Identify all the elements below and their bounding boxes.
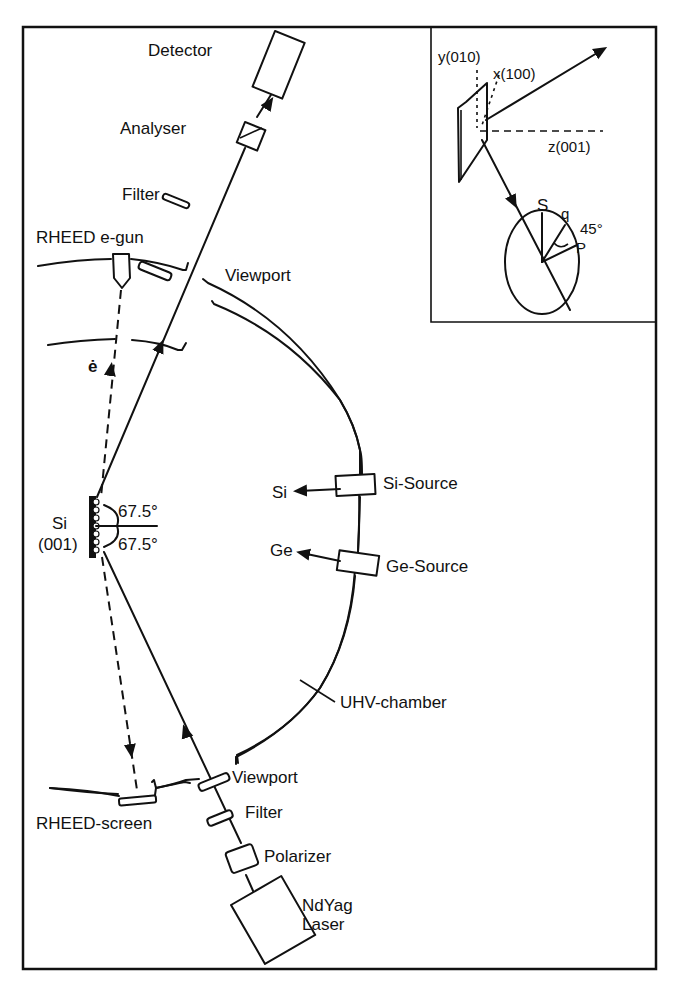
rheed-screen bbox=[119, 795, 156, 805]
si-sample-label-1: Si bbox=[52, 514, 67, 533]
inset-geometry bbox=[458, 50, 603, 314]
pol-angle-label: 45° bbox=[580, 220, 603, 237]
viewport-bottom-label: Viewport bbox=[232, 768, 298, 787]
polarizer-label: Polarizer bbox=[264, 847, 331, 866]
analyser-label: Analyser bbox=[120, 119, 186, 138]
laser-label-1: NdYag bbox=[302, 896, 353, 915]
axis-y-label: y(010) bbox=[438, 48, 481, 65]
ge-source bbox=[302, 550, 379, 575]
si-beam-label: Si bbox=[272, 483, 287, 502]
analyser-box bbox=[237, 122, 266, 151]
filter-top bbox=[162, 193, 190, 209]
chamber-lower-arc bbox=[236, 576, 355, 764]
diffracted-electron-beam bbox=[102, 557, 137, 790]
si-source-label: Si-Source bbox=[383, 474, 458, 493]
ge-beam-label: Ge bbox=[270, 541, 293, 560]
beam-from-laser bbox=[246, 875, 254, 893]
axis-x-label: x(100) bbox=[493, 65, 536, 82]
chamber-bottom-mid bbox=[155, 782, 190, 795]
filter-bottom bbox=[206, 809, 233, 826]
experimental-setup-diagram: Detector Analyser Filter Viewport RHEED … bbox=[0, 0, 673, 988]
polarizer bbox=[225, 843, 259, 873]
rheed-egun bbox=[113, 254, 130, 288]
angle-upper-label: 67.5° bbox=[118, 502, 158, 521]
filter-bottom-label: Filter bbox=[245, 803, 283, 822]
angle-lower-label: 67.5° bbox=[118, 535, 158, 554]
detector-label: Detector bbox=[148, 41, 213, 60]
si-sample-label-2: (001) bbox=[38, 535, 78, 554]
viewport-top bbox=[138, 261, 173, 281]
ge-source-label: Ge-Source bbox=[386, 557, 468, 576]
pol-q-label: q bbox=[561, 205, 569, 222]
rheed-screen-label: RHEED-screen bbox=[36, 814, 152, 833]
chamber-between-sources bbox=[358, 497, 360, 552]
viewport-bottom bbox=[198, 772, 231, 791]
uhv-chamber-label: UHV-chamber bbox=[340, 693, 447, 712]
si-source bbox=[299, 474, 375, 496]
uhv-chamber-pointer bbox=[300, 680, 335, 702]
axis-z-label: z(001) bbox=[548, 138, 591, 155]
viewport-top-label: Viewport bbox=[225, 266, 291, 285]
pol-p-label: P bbox=[576, 239, 586, 256]
rheed-egun-label: RHEED e-gun bbox=[36, 228, 144, 247]
filter-top-label: Filter bbox=[122, 185, 160, 204]
chamber-top-left bbox=[38, 259, 111, 266]
pol-s-label: S bbox=[537, 196, 548, 215]
laser-label-2: Laser bbox=[302, 915, 345, 934]
electron-label: ė bbox=[88, 357, 97, 376]
detector-box bbox=[253, 31, 305, 99]
